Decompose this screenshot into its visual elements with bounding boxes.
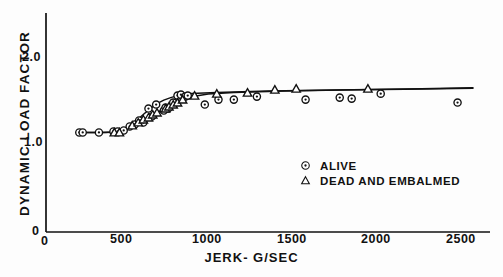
data-point-dead-embalmed (271, 86, 279, 93)
legend-item-alive: ALIVE (300, 158, 460, 173)
chart-plot-area (0, 0, 503, 277)
data-point-alive (145, 105, 152, 112)
data-point-dead-embalmed (292, 85, 300, 92)
data-point-alive (377, 90, 384, 97)
data-point-dead-embalmed (364, 85, 372, 92)
y-tick-label-0: 0 (32, 224, 39, 238)
x-tick-label-1000: 1000 (192, 232, 222, 246)
y-axis-title: DYNAMIC LOAD FACTOR (17, 4, 32, 244)
legend-label-alive: ALIVE (320, 160, 357, 172)
data-point-alive (95, 129, 102, 136)
circle-dot-icon (300, 160, 311, 171)
x-tick-label-0: 0 (41, 234, 48, 248)
x-axis-title: JERK- G/SEC (0, 250, 503, 265)
axes-group (46, 13, 490, 232)
data-point-alive (153, 101, 160, 108)
legend-item-dead-embalmed: DEAD AND EMBALMED (300, 173, 460, 188)
data-point-alive (348, 95, 355, 102)
data-point-alive (302, 96, 309, 103)
data-point-alive (230, 96, 237, 103)
data-markers-group (76, 85, 461, 136)
x-tick-label-500: 500 (110, 232, 132, 246)
triangle-icon (300, 175, 311, 186)
data-point-alive (253, 93, 260, 100)
x-tick-label-2500: 2500 (446, 232, 476, 246)
x-tick-label-1500: 1500 (277, 232, 307, 246)
data-point-alive (79, 129, 86, 136)
data-point-alive (454, 99, 461, 106)
y-tick-label-1: 1.0 (24, 135, 43, 149)
y-tick-label-2: 2.0 (22, 50, 41, 64)
data-point-alive (201, 101, 208, 108)
x-tick-label-2000: 2000 (361, 232, 391, 246)
data-point-alive (336, 94, 343, 101)
legend-label-dead-embalmed: DEAD AND EMBALMED (320, 175, 460, 187)
chart-legend: ALIVE DEAD AND EMBALMED (300, 158, 460, 188)
figure-canvas: DYNAMIC LOAD FACTOR JERK- G/SEC 2.0 1.0 … (0, 0, 503, 277)
